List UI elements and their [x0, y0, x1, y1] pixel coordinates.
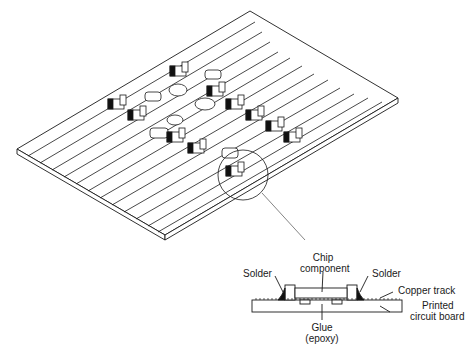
- chip-label-line1: Chip: [300, 252, 346, 263]
- copper-track-label: Copper track: [398, 285, 455, 296]
- circuit-board: [17, 11, 398, 240]
- pcb-label-line1: Printed: [410, 300, 464, 311]
- pcb-label-line2: circuit board: [410, 311, 464, 322]
- chip-component-label: Chip component: [300, 252, 346, 274]
- solder-right-label: Solder: [372, 268, 401, 279]
- glue-label: Glue (epoxy): [300, 322, 344, 344]
- glue-label-line2: (epoxy): [300, 333, 344, 344]
- solder-left-label: Solder: [243, 268, 272, 279]
- cross-section-detail: [252, 272, 402, 320]
- pcb-label: Printed circuit board: [410, 300, 464, 322]
- glue-label-line1: Glue: [300, 322, 344, 333]
- chip-label-line2: component: [300, 263, 346, 274]
- pcb-illustration: [0, 0, 469, 355]
